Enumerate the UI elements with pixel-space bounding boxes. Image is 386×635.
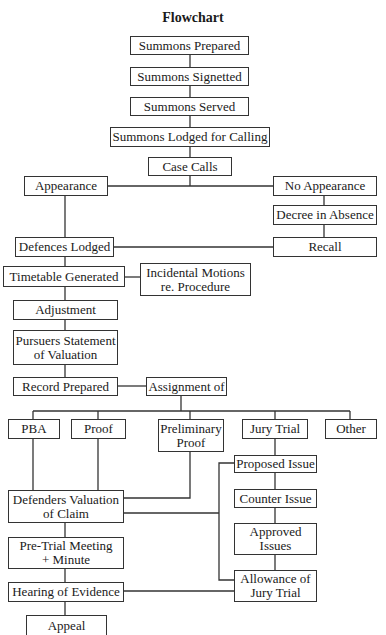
node-proof: Proof — [71, 419, 126, 439]
node-recall: Recall — [273, 237, 377, 257]
node-approved-issues: Approved Issues — [234, 523, 317, 555]
node-defenders-valuation: Defenders Valuation of Claim — [8, 490, 124, 523]
node-summons-served: Summons Served — [130, 97, 249, 116]
node-pre-trial-meeting: Pre-Trial Meeting + Minute — [8, 537, 124, 569]
node-allowance-of-jury-trial: Allowance of Jury Trial — [234, 570, 317, 602]
node-case-calls: Case Calls — [148, 157, 232, 176]
node-other: Other — [325, 419, 377, 439]
node-hearing-of-evidence: Hearing of Evidence — [8, 582, 124, 602]
node-no-appearance: No Appearance — [273, 176, 377, 196]
node-appeal: Appeal — [26, 615, 107, 635]
node-jury-trial: Jury Trial — [242, 419, 308, 439]
node-appearance: Appearance — [24, 176, 108, 196]
node-proposed-issue: Proposed Issue — [234, 455, 317, 473]
node-timetable-generated: Timetable Generated — [3, 266, 125, 287]
node-pba: PBA — [8, 419, 60, 439]
node-assignment-of: Assignment of — [146, 377, 227, 396]
node-pursuers-statement: Pursuers Statement of Valuation — [13, 330, 118, 365]
node-summons-signetted: Summons Signetted — [130, 67, 249, 86]
node-summons-lodged: Summons Lodged for Calling — [110, 127, 270, 147]
node-defences-lodged: Defences Lodged — [15, 237, 114, 257]
node-adjustment: Adjustment — [13, 300, 118, 320]
node-record-prepared: Record Prepared — [13, 377, 118, 396]
node-preliminary-proof: Preliminary Proof — [158, 419, 224, 452]
node-incidental-motions: Incidental Motions re. Procedure — [140, 263, 251, 296]
node-decree-in-absence: Decree in Absence — [273, 205, 377, 225]
node-summons-prepared: Summons Prepared — [130, 36, 249, 55]
node-counter-issue: Counter Issue — [234, 489, 317, 508]
